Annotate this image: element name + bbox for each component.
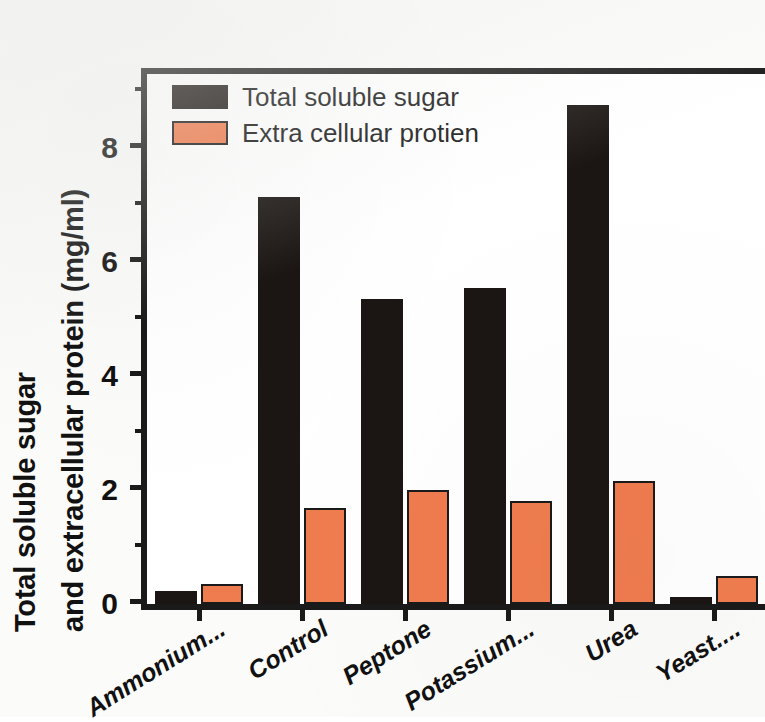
bar-extra-cellular-protien xyxy=(510,501,552,604)
chart-legend: Total soluble sugar Extra cellular proti… xyxy=(172,82,502,154)
y-axis-title: Total soluble sugar and extracellular pr… xyxy=(0,0,110,640)
legend-item-total-soluble-sugar: Total soluble sugar xyxy=(172,82,502,112)
y-tick-major xyxy=(130,143,147,148)
y-tick-label: 4 xyxy=(78,359,118,393)
x-tick xyxy=(506,604,511,621)
bar-total-soluble-sugar xyxy=(567,105,609,604)
y-tick-label: 0 xyxy=(78,587,118,621)
legend-label-protein: Extra cellular protien xyxy=(242,118,479,149)
y-tick-minor xyxy=(135,87,147,91)
bar-extra-cellular-protien xyxy=(716,576,758,604)
bar-extra-cellular-protien xyxy=(201,584,243,604)
x-tick xyxy=(712,604,717,621)
x-tick xyxy=(300,604,305,621)
y-tick-minor xyxy=(135,201,147,205)
y-tick-major xyxy=(130,257,147,262)
bar-total-soluble-sugar xyxy=(670,597,712,604)
x-tick xyxy=(403,604,408,621)
y-tick-minor xyxy=(135,429,147,433)
bar-total-soluble-sugar xyxy=(464,288,506,604)
y-axis-title-line-1: Total soluble sugar xyxy=(9,372,42,632)
y-tick-minor xyxy=(135,315,147,319)
legend-label-sugar: Total soluble sugar xyxy=(242,82,459,113)
y-tick-label: 6 xyxy=(78,245,118,279)
bar-extra-cellular-protien xyxy=(407,490,449,604)
x-tick xyxy=(609,604,614,621)
y-tick-major xyxy=(130,599,147,604)
y-tick-label: 2 xyxy=(78,473,118,507)
bar-extra-cellular-protien xyxy=(304,508,346,604)
y-tick-major xyxy=(130,371,147,376)
y-tick-label: 8 xyxy=(78,131,118,165)
bar-total-soluble-sugar xyxy=(155,591,197,604)
y-tick-minor xyxy=(135,543,147,547)
legend-swatch-icon-protein xyxy=(172,121,228,145)
bar-extra-cellular-protien xyxy=(613,481,655,604)
x-tick xyxy=(197,604,202,621)
bar-total-soluble-sugar xyxy=(258,197,300,604)
bar-total-soluble-sugar xyxy=(361,299,403,604)
legend-item-extra-cellular-protien: Extra cellular protien xyxy=(172,118,502,148)
y-tick-major xyxy=(130,485,147,490)
legend-swatch-icon-sugar xyxy=(172,85,228,109)
